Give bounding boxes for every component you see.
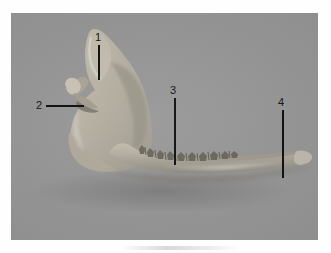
- scan-artifact: [120, 246, 240, 250]
- leader-line-3: [174, 98, 176, 165]
- specimen-photograph: 1 2 3 4: [11, 13, 318, 240]
- label-3: 3: [170, 85, 176, 96]
- label-2: 2: [36, 100, 42, 111]
- leader-line-1: [98, 45, 100, 80]
- figure-canvas: 1 2 3 4: [0, 0, 331, 253]
- mandible-illustration: [11, 13, 318, 240]
- label-1: 1: [95, 32, 101, 43]
- mental-symphysis: [294, 151, 312, 165]
- label-4: 4: [278, 97, 284, 108]
- leader-line-2: [46, 105, 84, 107]
- leader-line-4: [282, 110, 284, 178]
